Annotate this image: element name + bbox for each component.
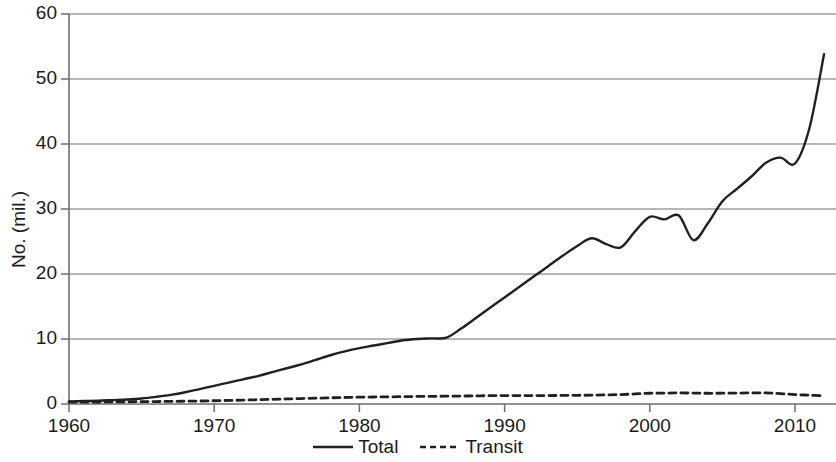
y-tick-label: 30 [13, 197, 57, 219]
series-line-transit [69, 393, 824, 402]
legend-item-transit: Transit [420, 436, 522, 458]
x-tick-label: 2010 [760, 415, 830, 437]
x-tick-label: 1990 [470, 415, 540, 437]
series-line-total [69, 54, 824, 401]
y-tick-label: 20 [13, 262, 57, 284]
plot-area [0, 0, 836, 462]
legend-label-transit: Transit [465, 436, 522, 458]
chart-canvas [0, 0, 836, 462]
legend-item-total: Total [313, 436, 398, 458]
chart-legend: Total Transit [0, 436, 836, 458]
legend-swatch-dashed [420, 441, 460, 453]
y-tick-label: 40 [13, 132, 57, 154]
y-tick-label: 0 [13, 392, 57, 414]
x-tick-label: 1980 [324, 415, 394, 437]
x-tick-label: 1960 [34, 415, 104, 437]
x-tick-label: 2000 [615, 415, 685, 437]
line-chart: No. (mil.) 0102030405060 196019701980199… [0, 0, 836, 462]
legend-label-total: Total [358, 436, 398, 458]
x-tick-label: 1970 [179, 415, 249, 437]
gridlines [69, 14, 836, 404]
y-tick-label: 50 [13, 67, 57, 89]
y-tick-label: 60 [13, 2, 57, 24]
legend-swatch-solid [313, 441, 353, 453]
y-tick-label: 10 [13, 327, 57, 349]
